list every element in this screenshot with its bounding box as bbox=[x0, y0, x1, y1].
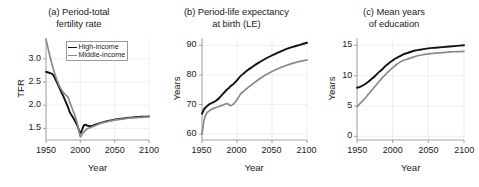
panel-a-xtick-label: 2050 bbox=[98, 145, 132, 155]
panel-b-ytick-label: 90 bbox=[158, 39, 197, 49]
panel-a-ytick-label: 2.0 bbox=[0, 99, 41, 109]
legend-swatch-high-income bbox=[68, 47, 77, 48]
panel-c-ytick-label: 0 bbox=[315, 130, 352, 140]
panel-a-xtick-label: 2000 bbox=[63, 145, 97, 155]
panel-b-ytick-label: 80 bbox=[158, 69, 197, 79]
panel-a-ytick-label: 3.0 bbox=[0, 53, 41, 63]
panel-a-ytick-label: 1.5 bbox=[0, 122, 41, 132]
panel-b-xtick-label: 2000 bbox=[220, 145, 254, 155]
panel-c-x-axis-label: Year bbox=[357, 162, 464, 173]
panel-a-x-axis-label: Year bbox=[46, 162, 149, 173]
panel-b-xtick-label: 2050 bbox=[255, 145, 289, 155]
panel-c-plot-area bbox=[315, 0, 473, 187]
panel-b-ytick-label: 70 bbox=[158, 99, 197, 109]
panel-b-y-axis-label: Years bbox=[170, 38, 181, 140]
legend: High-income Middle-income bbox=[66, 41, 128, 61]
panel-c-y-axis-label: Years bbox=[326, 38, 337, 140]
panel-c-ytick-label: 15 bbox=[315, 39, 352, 49]
panel-b-xtick-label: 1950 bbox=[185, 145, 219, 155]
legend-swatch-middle-income bbox=[68, 55, 77, 56]
panel-b-ytick-label: 60 bbox=[158, 128, 197, 138]
panel-c-ytick-label: 5 bbox=[315, 100, 352, 110]
chart-panel-b: (b) Period-life expectancy at birth (LE)… bbox=[158, 0, 316, 187]
panel-c-xtick-label: 2050 bbox=[412, 145, 446, 155]
legend-item-middle-income: Middle-income bbox=[68, 51, 125, 59]
chart-panel-a: (a) Period-total fertility rate TFR Year… bbox=[0, 0, 158, 187]
legend-label-middle-income: Middle-income bbox=[79, 51, 126, 59]
panel-c-ytick-label: 10 bbox=[315, 70, 352, 80]
panel-c-svg bbox=[315, 0, 473, 187]
panel-a-xtick-label: 1950 bbox=[29, 145, 63, 155]
panel-c-xtick-label: 2100 bbox=[447, 145, 479, 155]
panel-c-xtick-label: 2000 bbox=[376, 145, 410, 155]
panel-b-x-axis-label: Year bbox=[202, 162, 307, 173]
chart-panel-c: (c) Mean years of education Years Year 0… bbox=[315, 0, 473, 187]
panel-c-xtick-label: 1950 bbox=[340, 145, 374, 155]
panel-a-ytick-label: 2.5 bbox=[0, 76, 41, 86]
